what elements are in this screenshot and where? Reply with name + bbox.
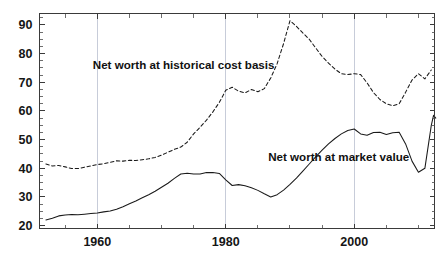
y-axis-label-30: 30 (19, 190, 33, 204)
y-axis-label-50: 50 (19, 133, 33, 147)
y-axis-label-20: 20 (19, 219, 33, 233)
chart-background (0, 0, 445, 256)
annotation-historical-cost-basis: Net worth at historical cost basis (93, 58, 275, 71)
line-chart: 2030405060708090 196019802000 Net worth … (0, 0, 445, 256)
x-axis-label-1980: 1980 (212, 235, 240, 249)
annotation-market-value: Net worth at market value (268, 150, 410, 163)
y-axis-label-60: 60 (19, 104, 33, 118)
x-axis-label-1960: 1960 (83, 235, 111, 249)
y-axis-label-80: 80 (19, 47, 33, 61)
y-axis-label-70: 70 (19, 76, 33, 90)
y-axis-label-40: 40 (19, 162, 33, 176)
chart-container: 2030405060708090 196019802000 Net worth … (0, 0, 445, 256)
y-axis-label-90: 90 (19, 18, 33, 32)
x-axis-label-2000: 2000 (340, 235, 368, 249)
